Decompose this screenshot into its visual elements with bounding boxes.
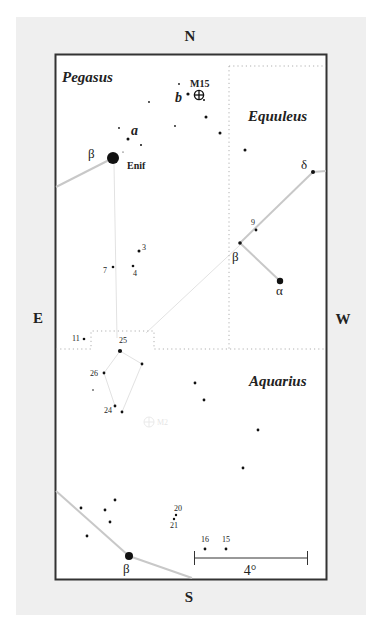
star-icon <box>118 349 122 353</box>
star-icon <box>204 548 207 551</box>
star-icon <box>205 116 208 119</box>
star-icon <box>109 521 112 524</box>
star-icon <box>141 363 144 366</box>
star-icon <box>203 99 205 101</box>
label-n24: 24 <box>104 406 112 415</box>
label-peg-beta: β <box>88 146 95 161</box>
star-chart: M2 M15 Enifβabδβαβ93741125262420211615 P… <box>0 0 381 630</box>
star-icon <box>112 266 115 269</box>
star-icon <box>255 229 258 232</box>
star-icon <box>257 429 260 432</box>
star-icon <box>140 144 142 146</box>
label-n4: 4 <box>133 269 137 278</box>
star-icon <box>107 152 119 164</box>
star-icon <box>238 241 242 245</box>
label-n11: 11 <box>72 334 80 343</box>
label-n21: 21 <box>170 521 178 530</box>
star-icon <box>174 125 176 127</box>
constellation-pegasus: Pegasus <box>62 69 113 85</box>
chart-frame <box>56 55 327 580</box>
star-icon <box>186 92 189 95</box>
scale-bar-label: 4° <box>244 563 257 578</box>
label-peg-a: a <box>131 123 138 138</box>
star-icon <box>138 250 141 253</box>
star-icon <box>178 83 180 85</box>
ghost-m2-label: M2 <box>157 418 168 427</box>
label-n25: 25 <box>119 336 127 345</box>
star-icon <box>244 149 247 152</box>
star-icon <box>175 514 177 516</box>
star-icon <box>225 548 228 551</box>
star-icon <box>121 411 124 414</box>
star-icon <box>80 507 83 510</box>
star-icon <box>148 101 150 103</box>
label-n9: 9 <box>251 218 255 227</box>
label-equ-delta: δ <box>301 157 307 172</box>
label-n7: 7 <box>103 266 107 275</box>
star-icon <box>125 552 133 560</box>
star-icon <box>219 132 222 135</box>
label-n16: 16 <box>201 535 209 544</box>
label-n26: 26 <box>90 369 98 378</box>
label-aqr-beta: β <box>123 561 130 576</box>
star-icon <box>122 151 123 152</box>
star-icon <box>311 170 315 174</box>
star-icon <box>92 389 94 391</box>
star-icon <box>127 138 130 141</box>
star-icon <box>83 338 86 341</box>
label-n15: 15 <box>222 535 230 544</box>
star-icon <box>173 518 175 520</box>
label-n20: 20 <box>174 504 182 513</box>
label-equ-beta: β <box>232 249 239 264</box>
star-icon <box>114 499 117 502</box>
star-icon <box>114 405 117 408</box>
label-n3: 3 <box>142 243 146 252</box>
m15-label: M15 <box>190 78 209 89</box>
star-icon <box>103 372 106 375</box>
label-enif: Enif <box>127 160 146 171</box>
star-icon <box>242 467 245 470</box>
star-icon <box>194 382 197 385</box>
constellation-equuleus: Equuleus <box>247 108 307 124</box>
label-equ-alpha: α <box>276 283 283 298</box>
label-peg-b: b <box>175 90 182 105</box>
star-icon <box>104 509 107 512</box>
star-icon <box>203 399 206 402</box>
star-icon <box>118 127 120 129</box>
star-icon <box>132 265 135 268</box>
m15-cluster-icon <box>194 90 203 99</box>
star-icon <box>86 535 89 538</box>
constellation-aquarius: Aquarius <box>248 373 307 389</box>
